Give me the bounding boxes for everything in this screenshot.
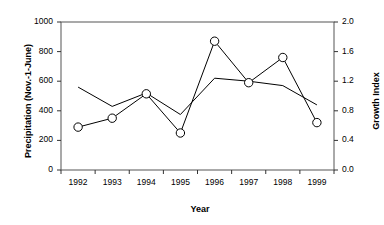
chart-container: Precipitation (Nov.-1-June) Growth Index… (0, 0, 384, 225)
y-axis-right-tick-label: 1.6 (342, 46, 376, 56)
y-axis-right-tick-label: 0.4 (342, 134, 376, 144)
y-axis-left-tick-label: 200 (19, 134, 53, 144)
y-axis-right-tick-label: 0.8 (342, 105, 376, 115)
x-axis-tick-label: 1999 (297, 177, 337, 187)
y-axis-left-tick-label: 600 (19, 75, 53, 85)
y-axis-left-tick-label: 800 (19, 46, 53, 56)
y-axis-left-tick-label: 400 (19, 105, 53, 115)
y-axis-right-tick-label: 1.2 (342, 75, 376, 85)
y-axis-left-tick-label: 1000 (19, 16, 53, 26)
y-axis-right-tick-label: 0.0 (342, 164, 376, 174)
plot-canvas (0, 0, 384, 225)
x-axis-title: Year (60, 204, 340, 214)
y-axis-left-tick-label: 0 (19, 164, 53, 174)
y-axis-right-tick-label: 2.0 (342, 16, 376, 26)
